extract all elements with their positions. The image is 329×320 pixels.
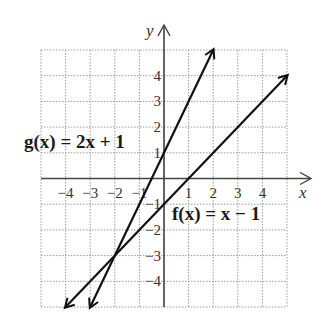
y-tick-label: 4 [154, 68, 162, 84]
x-axis-label: x [298, 183, 307, 202]
y-axis-label: y [144, 21, 154, 40]
y-tick-label: −2 [145, 222, 161, 238]
x-tick-label: 2 [209, 185, 217, 201]
y-tick-label: 1 [154, 145, 162, 161]
y-tick-label: −3 [145, 248, 161, 264]
coordinate-plane: −4−3−2−11234−4−3−2−11234 y x g(x) = 2x +… [0, 0, 329, 320]
arrowhead [66, 76, 287, 307]
x-tick-label: 4 [259, 185, 267, 201]
axes [41, 26, 310, 307]
y-tick-label: 3 [154, 93, 162, 109]
x-tick-label: 1 [185, 185, 193, 201]
x-tick-label: −3 [82, 185, 98, 201]
x-tick-label: 3 [234, 185, 242, 201]
y-tick-label: 2 [154, 119, 162, 135]
f-function-label: f(x) = x − 1 [172, 203, 260, 225]
x-tick-label: −4 [58, 185, 74, 201]
g-function-label: g(x) = 2x + 1 [24, 131, 125, 153]
y-tick-label: −4 [145, 273, 161, 289]
x-tick-label: −2 [107, 185, 123, 201]
